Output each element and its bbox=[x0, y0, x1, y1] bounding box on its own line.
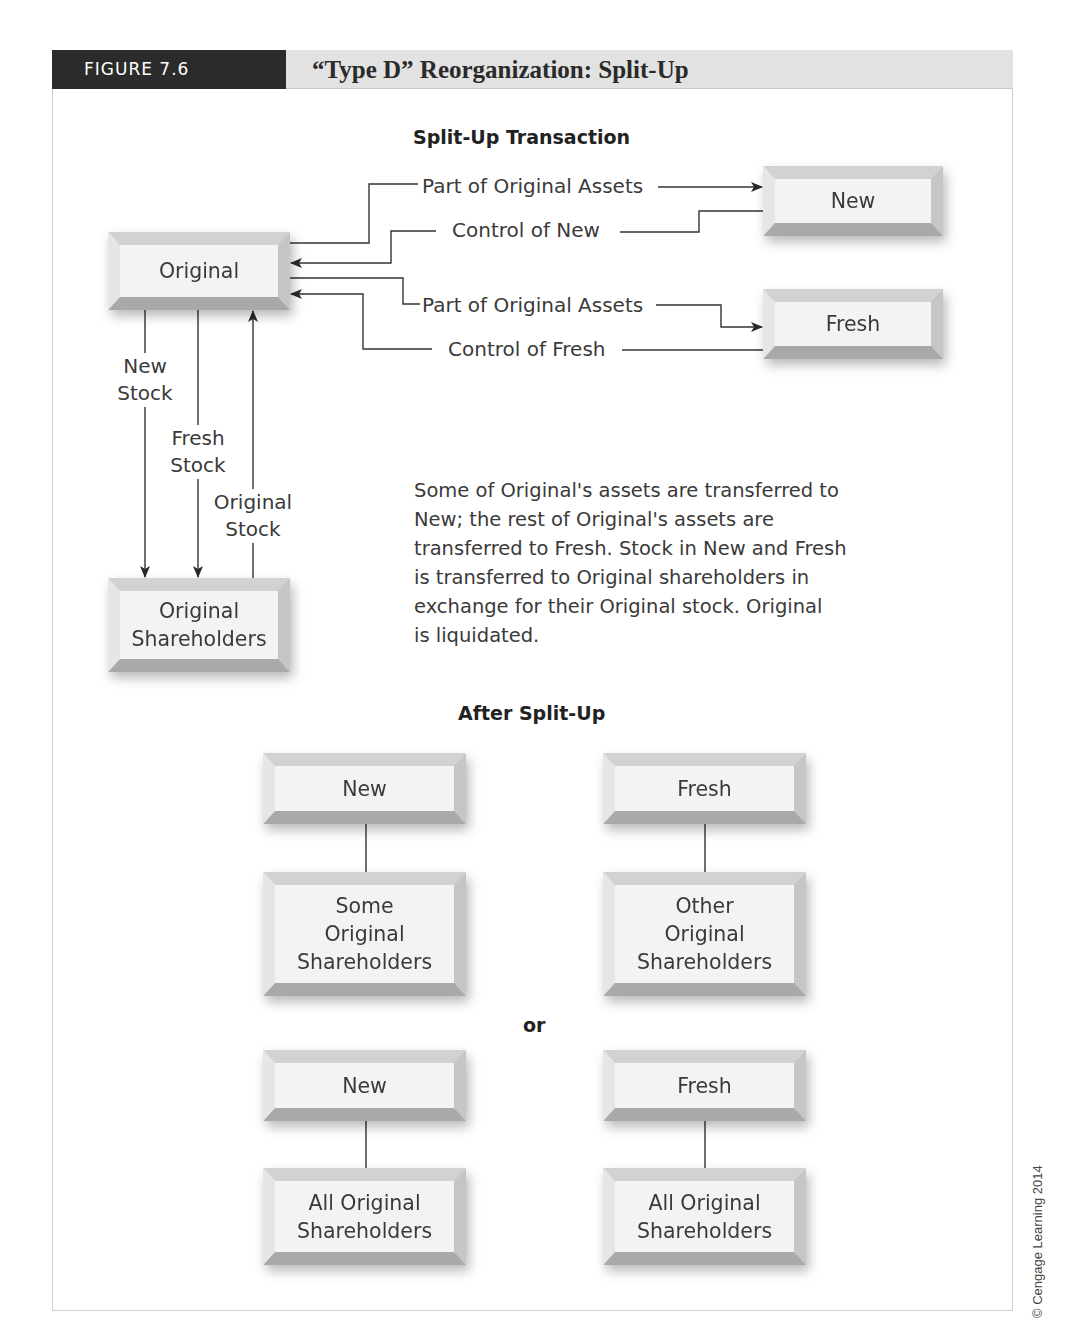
assets-to-fresh-arrow bbox=[656, 305, 762, 327]
entity-box-original: Original bbox=[108, 232, 290, 310]
entity-box-new: New bbox=[763, 166, 943, 236]
label-original-stock: Original Stock bbox=[208, 489, 298, 543]
or-separator: or bbox=[523, 1014, 545, 1036]
control-of-fresh-arrow bbox=[291, 294, 432, 349]
after-option2-all-shareholders-right-box: All Original Shareholders bbox=[603, 1168, 806, 1265]
label-new-stock: New Stock bbox=[112, 353, 178, 407]
copyright-notice: © Cengage Learning 2014 bbox=[1030, 1165, 1045, 1318]
transaction-description: Some of Original's assets are transferre… bbox=[414, 476, 884, 650]
after-option2-new-box: New bbox=[263, 1050, 466, 1121]
after-option2-all-shareholders-left-box: All Original Shareholders bbox=[263, 1168, 466, 1265]
after-option1-new-box: New bbox=[263, 753, 466, 824]
label-assets-to-fresh: Part of Original Assets bbox=[420, 292, 645, 318]
after-option1-fresh-box: Fresh bbox=[603, 753, 806, 824]
assets-to-fresh-line-left bbox=[290, 278, 420, 304]
control-of-new-line-right bbox=[620, 211, 763, 232]
assets-to-new-line-left bbox=[290, 184, 418, 243]
after-option1-some-shareholders-box: Some Original Shareholders bbox=[263, 872, 466, 996]
after-option1-other-shareholders-box: Other Original Shareholders bbox=[603, 872, 806, 996]
after-heading: After Split-Up bbox=[458, 702, 605, 724]
after-option2-fresh-box: Fresh bbox=[603, 1050, 806, 1121]
entity-box-fresh: Fresh bbox=[763, 289, 943, 359]
label-fresh-stock: Fresh Stock bbox=[165, 425, 231, 479]
control-of-new-arrow bbox=[291, 231, 436, 263]
entity-box-original-shareholders: Original Shareholders bbox=[108, 578, 290, 672]
label-control-of-new: Control of New bbox=[450, 217, 602, 243]
label-control-of-fresh: Control of Fresh bbox=[446, 336, 608, 362]
label-assets-to-new: Part of Original Assets bbox=[420, 173, 645, 199]
